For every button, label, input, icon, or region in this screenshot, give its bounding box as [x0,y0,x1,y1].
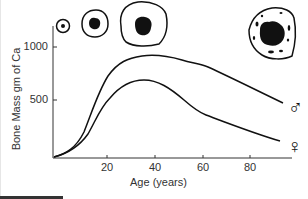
bone-section-infant-icon [57,20,70,33]
y-tick-label-1000: 1000 [18,40,48,52]
x-tick-label-40: 40 [143,161,167,173]
male-curve [54,55,283,157]
x-tick-label-80: 80 [238,161,262,173]
bone-mass-chart: Bone Mass gm of Ca 1000 500 20 40 60 80 … [0,0,308,199]
x-axis-label: Age (years) [130,176,187,188]
bone-section-child-icon [82,10,108,37]
bottom-rule [0,196,63,199]
y-tick-label-500: 500 [18,93,48,105]
female-curve [54,80,280,157]
x-tick-label-60: 60 [191,161,215,173]
bone-section-elderly-porous-icon [249,8,295,59]
male-symbol-icon: ♂ [288,97,303,117]
female-symbol-icon: ♀ [287,136,302,156]
x-tick-label-20: 20 [95,161,119,173]
bone-section-adult-icon [121,2,167,46]
